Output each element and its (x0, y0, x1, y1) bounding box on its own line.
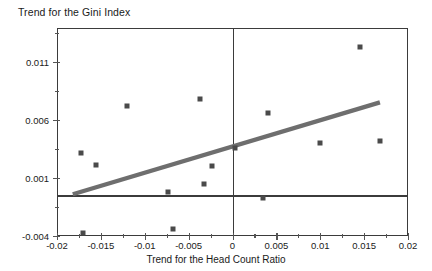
x-axis-tick-major (233, 233, 234, 240)
y-axis-tick-major (53, 120, 60, 121)
scatter-point (318, 141, 323, 146)
y-axis-tick-label: -0.004 (22, 231, 49, 242)
x-axis-tick-major (320, 233, 321, 240)
y-axis-tick-major (53, 178, 60, 179)
scatter-point (265, 110, 270, 115)
scatter-point (94, 163, 99, 168)
x-axis-tick-label: -0.01 (134, 240, 156, 251)
x-axis-tick-minor (342, 234, 343, 238)
x-axis-tick-minor (167, 234, 168, 238)
x-axis-tick-label: 0 (230, 240, 235, 251)
x-axis-tick-label: 0.005 (264, 240, 288, 251)
x-axis-tick-label: 0.015 (352, 240, 376, 251)
scatter-point (357, 44, 362, 49)
scatter-point (166, 189, 171, 194)
y-axis-tick-major (53, 62, 60, 63)
scatter-point (198, 96, 203, 101)
x-axis-tick-label: -0.02 (46, 240, 68, 251)
x-axis-tick-major (408, 233, 409, 240)
y-axis-tick-minor (55, 207, 59, 208)
x-axis-tick-major (101, 233, 102, 240)
scatter-point (377, 138, 382, 143)
x-axis-tick-major (189, 233, 190, 240)
scatter-point (78, 151, 83, 156)
scatter-point (201, 181, 206, 186)
chart-title: Trend for the Gini Index (18, 6, 130, 18)
y-axis-tick-minor (55, 91, 59, 92)
x-axis-tick-major (276, 233, 277, 240)
x-axis-tick-major (364, 233, 365, 240)
x-axis-tick-label: 0.01 (311, 240, 330, 251)
y-axis-tick-label: 0.001 (25, 172, 49, 183)
x-axis-tick-minor (79, 234, 80, 238)
x-axis-tick-major (145, 233, 146, 240)
x-axis-tick-minor (254, 234, 255, 238)
y-axis-tick-label: 0.006 (25, 114, 49, 125)
x-axis-tick-label: -0.005 (175, 240, 202, 251)
y-axis-tick-label: 0.011 (26, 56, 49, 67)
scatter-point (125, 103, 130, 108)
x-axis-tick-label: 0.02 (399, 240, 418, 251)
scatter-point (210, 164, 215, 169)
y-axis-tick-minor (55, 149, 59, 150)
chart-container: Trend for the Gini Index -0.0040.0010.00… (0, 0, 432, 271)
x-axis-tick-minor (211, 234, 212, 238)
x-axis-tick-label: -0.015 (87, 240, 114, 251)
y-axis-tick-minor (55, 33, 59, 34)
x-axis-tick-major (57, 233, 58, 240)
x-axis-tick-minor (386, 234, 387, 238)
scatter-point (170, 227, 175, 232)
x-axis-tick-minor (298, 234, 299, 238)
vertical-zero-reference-line (233, 28, 234, 236)
scatter-point (81, 230, 86, 235)
scatter-point (233, 145, 238, 150)
scatter-point (261, 195, 266, 200)
x-axis-tick-minor (123, 234, 124, 238)
x-axis-title: Trend for the Head Count Ratio (0, 254, 432, 265)
horizontal-zero-reference-line (57, 195, 408, 196)
